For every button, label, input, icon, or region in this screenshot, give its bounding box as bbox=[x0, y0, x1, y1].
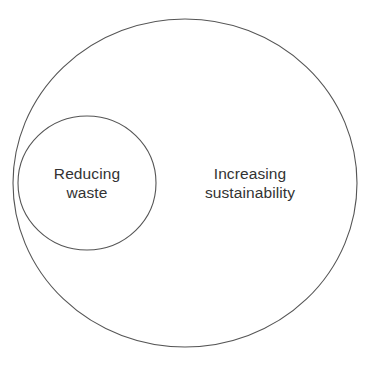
venn-diagram-svg bbox=[0, 0, 370, 367]
outer-circle bbox=[13, 19, 357, 347]
inner-circle bbox=[18, 116, 156, 250]
euler-diagram-canvas: Increasing sustainability Reducing waste bbox=[0, 0, 370, 367]
